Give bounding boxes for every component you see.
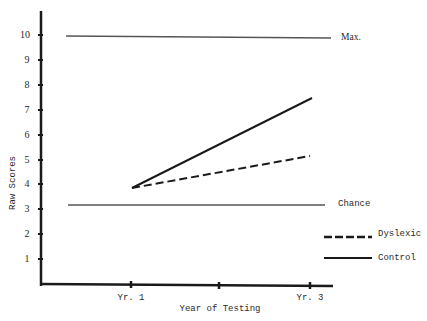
y-tick-7: 7 [25,104,30,115]
y-tick-9: 9 [25,54,30,65]
y-tick-1: 1 [25,253,30,264]
legend: Dyslexic Control [324,229,421,263]
max-line [66,36,331,38]
line-chart: 1 2 3 4 5 6 7 8 9 10 Raw Scores Yr. 1 Yr… [0,0,427,321]
y-tick-labels: 1 2 3 4 5 6 7 8 9 10 [20,29,30,264]
series-control [132,98,312,188]
y-tick-4: 4 [25,178,30,189]
y-axis-label: Raw Scores [8,156,18,210]
y-tick-10: 10 [20,29,30,40]
legend-dyslexic-label: Dyslexic [378,229,421,239]
x-axis-label: Year of Testing [179,304,260,314]
x-axis [40,281,333,289]
max-label: Max. [341,32,361,42]
chance-label: Chance [338,199,370,209]
y-tick-6: 6 [25,129,30,140]
y-tick-3: 3 [25,203,30,214]
y-axis [38,11,43,286]
y-tick-8: 8 [25,79,30,90]
x-tick-yr3: Yr. 3 [296,293,323,303]
y-tick-2: 2 [25,228,30,239]
legend-control-label: Control [378,253,416,263]
y-tick-5: 5 [25,154,30,165]
x-tick-yr1: Yr. 1 [117,293,144,303]
series-dyslexic [132,156,310,188]
